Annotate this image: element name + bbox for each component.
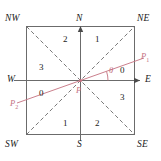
compass-label-w: W [7,75,15,85]
angle-arc-theta [107,72,108,81]
compass-label-e: E [145,75,151,85]
center-point-marker [79,79,82,82]
octant-label-0-right-upper: 0 [120,66,125,75]
compass-label-n: N [76,14,83,24]
compass-label-s: S [77,140,82,150]
compass-label-sw: SW [5,140,18,150]
octant-label-1-bottom-left: 1 [63,119,68,128]
axis-arrow-east [134,78,140,83]
octant-diagram: NW N NE W E SW S SE 2 1 3 0 0 3 1 2 P P1… [0,0,161,161]
octant-label-2-bottom-right: 2 [95,119,100,128]
octant-label-2-top-left: 2 [63,35,68,44]
octant-label-0-left-lower: 0 [39,89,44,98]
compass-label-nw: NW [5,14,20,24]
diagram-canvas [0,0,161,161]
compass-label-se: SE [137,140,148,150]
octant-label-3-left-upper: 3 [39,63,44,72]
point-label-p2: P2 [10,99,18,110]
compass-label-ne: NE [137,14,150,24]
point-label-p: P [76,86,81,95]
angle-label-theta: θ [109,66,113,75]
octant-label-1-top-right: 1 [95,35,100,44]
point-label-p1: P1 [141,52,149,63]
octant-label-3-right-lower: 3 [120,93,125,102]
